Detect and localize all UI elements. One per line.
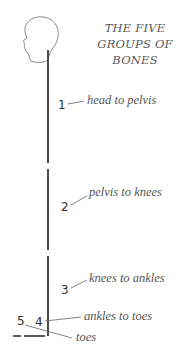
five-groups-of-bones-diagram: THE FIVE GROUPS OF BONES 1 head to pelvi… (0, 0, 181, 354)
group-5-number: 5 (17, 315, 25, 327)
leader-line-3 (71, 280, 87, 288)
group-5-label: toes (76, 331, 96, 344)
title-line-2: GROUPS OF (95, 36, 175, 52)
group-1-number: 1 (58, 99, 66, 111)
group-3-number: 3 (61, 284, 69, 296)
group-4-label: ankles to toes (84, 310, 152, 323)
leader-line-2 (71, 196, 87, 205)
head-icon (24, 17, 59, 63)
title-line-1: THE FIVE (95, 20, 175, 36)
group-2-number: 2 (61, 201, 69, 213)
group-1-label: head to pelvis (87, 94, 156, 107)
group-3-label: knees to ankles (89, 272, 165, 285)
leader-line-4 (45, 317, 81, 321)
leader-line-1 (68, 101, 84, 104)
group-4-number: 4 (35, 316, 43, 328)
group-2-label: pelvis to knees (89, 186, 162, 199)
diagram-title: THE FIVE GROUPS OF BONES (95, 20, 175, 68)
title-line-3: BONES (95, 52, 175, 68)
